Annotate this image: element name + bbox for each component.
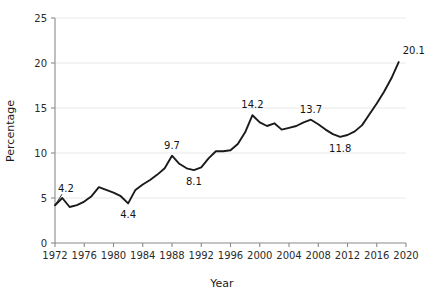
data-series xyxy=(55,62,399,207)
data-label-4-2: 4.2 xyxy=(58,183,74,194)
series-line-0 xyxy=(55,62,399,207)
y-tick-label-25: 25 xyxy=(34,13,47,24)
x-axis-label: Year xyxy=(209,277,234,290)
chart-container: 1972197619801984198819921996200020042008… xyxy=(0,0,430,295)
y-tick-label-20: 20 xyxy=(34,58,47,69)
data-label-20-1: 20.1 xyxy=(403,45,425,56)
data-label-9-7: 9.7 xyxy=(164,140,180,151)
data-label-4-4: 4.4 xyxy=(120,209,136,220)
x-tick-label-2020: 2020 xyxy=(393,250,418,261)
x-tick-label-1988: 1988 xyxy=(159,250,184,261)
x-tick-label-1976: 1976 xyxy=(72,250,97,261)
x-tick-label-1972: 1972 xyxy=(42,250,67,261)
gridlines xyxy=(55,18,406,198)
y-axis-ticks: 0510152025 xyxy=(34,13,55,249)
y-tick-label-0: 0 xyxy=(41,238,47,249)
data-labels: 4.24.49.78.114.213.711.820.1 xyxy=(55,45,425,220)
data-label-14-2: 14.2 xyxy=(241,99,263,110)
x-tick-label-2004: 2004 xyxy=(276,250,301,261)
line-chart: 1972197619801984198819921996200020042008… xyxy=(0,0,430,295)
x-tick-label-1984: 1984 xyxy=(130,250,155,261)
x-tick-label-2012: 2012 xyxy=(335,250,360,261)
y-axis-label: Percentage xyxy=(4,100,17,162)
x-tick-label-1992: 1992 xyxy=(189,250,214,261)
axes xyxy=(55,18,406,243)
x-tick-label-2008: 2008 xyxy=(306,250,331,261)
x-tick-label-2000: 2000 xyxy=(247,250,272,261)
x-tick-label-1980: 1980 xyxy=(101,250,126,261)
x-tick-label-1996: 1996 xyxy=(218,250,243,261)
data-label-8-1: 8.1 xyxy=(186,176,202,187)
y-tick-label-10: 10 xyxy=(34,148,47,159)
data-label-13-7: 13.7 xyxy=(300,104,322,115)
y-tick-label-15: 15 xyxy=(34,103,47,114)
x-axis-ticks: 1972197619801984198819921996200020042008… xyxy=(42,243,418,261)
x-tick-label-2016: 2016 xyxy=(364,250,389,261)
data-label-11-8: 11.8 xyxy=(329,143,351,154)
y-tick-label-5: 5 xyxy=(41,193,47,204)
